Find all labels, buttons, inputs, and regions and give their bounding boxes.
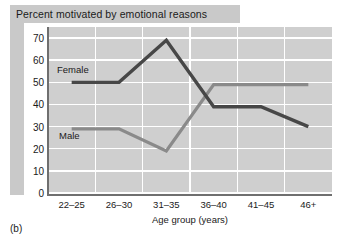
- x-axis-title: Age group (years): [48, 214, 332, 225]
- panel-caption: (b): [10, 223, 22, 234]
- series-label-female: Female: [57, 64, 89, 75]
- x-axis-tick-label: 22–25: [58, 199, 84, 210]
- x-axis-tick-label: 46+: [300, 199, 316, 210]
- y-axis-tick-label: 60: [24, 55, 44, 66]
- x-axis-tick-label: 26–30: [106, 199, 132, 210]
- y-axis-tick-label: 0: [24, 188, 44, 199]
- y-axis-tick-label: 10: [24, 165, 44, 176]
- series-line-male: [72, 85, 309, 151]
- x-axis-tick-label: 36–40: [200, 199, 226, 210]
- y-axis-tick-label: 50: [24, 77, 44, 88]
- x-axis-tick-label: 31–35: [153, 199, 179, 210]
- y-axis-tick-labels: 010203040506070: [20, 27, 44, 193]
- x-axis-line: [47, 194, 332, 196]
- y-axis-tick-label: 40: [24, 99, 44, 110]
- x-axis-tick-label: 41–45: [248, 199, 274, 210]
- figure-panel-b: Percent motivated by emotional reasons 0…: [0, 0, 345, 248]
- x-axis-tick-labels: 22–2526–3031–3536–4041–4546+: [48, 199, 332, 213]
- y-axis-tick-label: 30: [24, 121, 44, 132]
- chart-title-band: Percent motivated by emotional reasons: [10, 5, 240, 23]
- chart-title: Percent motivated by emotional reasons: [10, 8, 207, 20]
- y-axis-tick-label: 20: [24, 143, 44, 154]
- series-label-male: Male: [59, 130, 80, 141]
- y-axis-tick-label: 70: [24, 33, 44, 44]
- series-lines: [48, 27, 332, 193]
